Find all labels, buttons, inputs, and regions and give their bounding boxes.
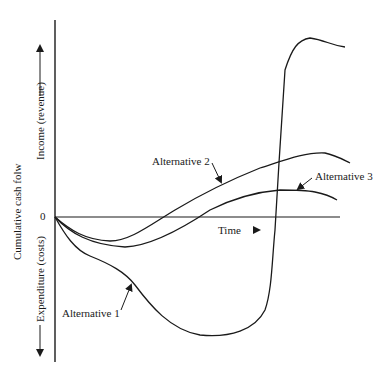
y-axis-title: Cumulative cash folw [12,163,23,260]
alternative-3-label: Alternative 3 [315,171,373,182]
income-label: Income (revenue) [35,82,46,160]
alt3-pointer-icon [298,178,312,189]
expenditure-label: Expenditure (costs) [35,236,46,322]
alt1-pointer-icon [121,285,131,310]
alternative-2-label: Alternative 2 [152,156,210,167]
alternative-1-label: Alternative 1 [62,308,120,319]
chart-canvas [0,0,389,379]
alt2-pointer-icon [212,163,221,182]
zero-label: 0 [40,211,46,222]
time-label: Time [218,225,241,236]
